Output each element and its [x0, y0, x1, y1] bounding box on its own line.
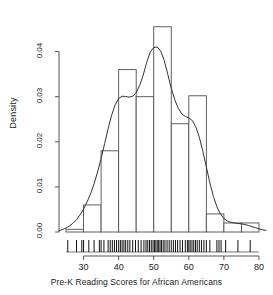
y-tick-label: 0.02 — [35, 126, 44, 154]
histogram-bar — [84, 205, 102, 232]
x-tick-label: 60 — [177, 262, 201, 272]
y-axis-title: Density — [8, 78, 18, 148]
y-tick-label: 0.01 — [35, 171, 44, 199]
y-tick-label: 0.03 — [35, 81, 44, 109]
histogram-bar — [189, 96, 207, 232]
x-tick-label: 50 — [142, 262, 166, 272]
histogram-bar — [66, 229, 84, 232]
histogram-bar — [154, 27, 172, 232]
x-tick-label: 40 — [107, 262, 131, 272]
histogram-bar — [206, 214, 224, 232]
x-tick-label: 70 — [212, 262, 236, 272]
x-axis — [84, 256, 259, 260]
y-tick-label: 0.00 — [35, 217, 44, 245]
x-axis-title: Pre-K Reading Scores for African America… — [0, 277, 273, 287]
density-histogram-plot: Density Pre-K Reading Scores for African… — [0, 0, 273, 295]
histogram-bar — [119, 70, 137, 232]
histogram-bar — [101, 151, 119, 232]
y-axis — [55, 52, 59, 232]
x-tick-label: 80 — [247, 262, 271, 272]
histogram-bar — [224, 223, 242, 232]
histogram-bar — [136, 97, 154, 232]
x-tick-label: 30 — [72, 262, 96, 272]
rug-plot — [66, 240, 259, 252]
y-tick-label: 0.04 — [35, 36, 44, 64]
histogram-bars — [66, 27, 259, 232]
histogram-bar — [171, 124, 189, 232]
